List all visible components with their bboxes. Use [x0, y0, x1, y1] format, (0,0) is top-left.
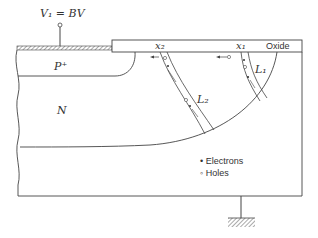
oxide-label: Oxide — [266, 42, 290, 51]
ground-symbol — [228, 196, 255, 227]
voltage-label: V₁ = BV — [40, 8, 85, 19]
n-region-label: N — [57, 105, 67, 116]
p-plus-label: P⁺ — [54, 61, 67, 72]
x2-arrow — [150, 56, 159, 59]
metal-contact — [17, 46, 112, 50]
pn-junction-breakdown-diagram: V₁ = BV P⁺ N Oxide x₁ x₂ L₁ L₂ • Electro… — [0, 0, 318, 238]
hole-drift-arrow — [216, 55, 231, 58]
legend-electrons: • Electrons — [200, 157, 243, 166]
legend-holes: ◦ Holes — [200, 169, 229, 178]
l2-label: L₂ — [197, 94, 209, 105]
x2-label: x₂ — [155, 41, 165, 51]
voltage-terminal — [58, 23, 62, 46]
x1-label: x₁ — [236, 41, 246, 51]
p-plus-region-boundary — [18, 52, 135, 76]
l1-label: L₁ — [255, 64, 267, 75]
diagram-graphics — [0, 0, 318, 238]
path-l2-inner — [167, 52, 214, 130]
